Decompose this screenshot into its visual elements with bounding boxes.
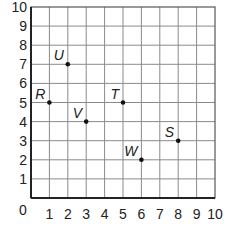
origin-label: 0	[19, 202, 27, 218]
y-tick-label: 6	[19, 75, 27, 91]
y-tick-label: 1	[19, 171, 27, 187]
point-label: W	[124, 143, 139, 159]
data-point	[66, 62, 71, 67]
data-point	[47, 100, 52, 105]
data-point	[84, 119, 89, 124]
data-point	[139, 158, 144, 163]
x-tick-label: 9	[193, 206, 201, 222]
y-tick-label: 8	[19, 37, 27, 53]
y-tick-label: 9	[19, 18, 27, 34]
point-label: T	[110, 86, 120, 102]
y-tick-label: 3	[19, 133, 27, 149]
point-label: U	[54, 47, 65, 63]
x-tick-label: 2	[64, 206, 72, 222]
x-tick-label: 6	[138, 206, 146, 222]
x-tick-label: 5	[119, 206, 127, 222]
y-tick-label: 4	[19, 114, 27, 130]
data-point	[121, 100, 126, 105]
point-label: R	[35, 86, 45, 102]
y-tick-label: 5	[19, 95, 27, 111]
y-tick-label: 2	[19, 152, 27, 168]
x-tick-label: 7	[156, 206, 164, 222]
data-point	[176, 138, 181, 143]
point-label: V	[73, 105, 84, 121]
x-tick-label: 4	[101, 206, 109, 222]
point-label: S	[165, 124, 175, 140]
y-tick-label: 7	[19, 56, 27, 72]
x-tick-label: 8	[174, 206, 182, 222]
x-tick-label: 3	[82, 206, 90, 222]
x-tick-label: 1	[46, 206, 54, 222]
y-tick-label: 10	[11, 0, 27, 15]
coordinate-grid-chart: 12345678910012345678910RUVTWS	[0, 0, 236, 225]
x-tick-label: 10	[207, 206, 223, 222]
